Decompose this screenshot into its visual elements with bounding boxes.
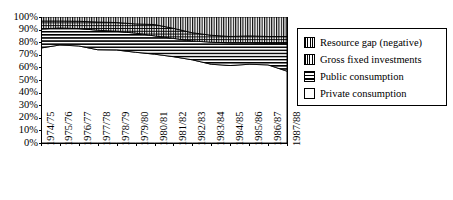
legend-entry: Resource gap (negative) <box>304 35 422 49</box>
legend-swatch-dotted-grid-icon <box>304 54 315 65</box>
x-axis-tick-label: 1984/85 <box>235 112 246 146</box>
x-axis-tick-label: 1975/76 <box>64 112 75 146</box>
x-axis-tick-label: 1982/83 <box>197 112 208 146</box>
legend-entry: Private consumption <box>304 86 407 100</box>
x-axis-tick-label: 1977/78 <box>102 112 113 146</box>
x-axis-tick-label: 1979/80 <box>140 112 151 146</box>
stacked-area-chart: 100%90%80%70%60%50%40%30%20%10%0% <box>0 0 453 200</box>
chart-legend: Resource gap (negative)Gross fixed inves… <box>297 28 447 106</box>
x-axis-tick-label: 1987/88 <box>292 112 303 146</box>
x-axis-tick-label: 1986/87 <box>273 112 284 146</box>
x-axis-tick-label: 1980/81 <box>159 112 170 146</box>
legend-entry: Public consumption <box>304 69 404 83</box>
legend-label: Private consumption <box>320 88 407 99</box>
legend-swatch-vertical-lines-icon <box>304 37 315 48</box>
x-axis-tick-label: 1974/75 <box>46 112 57 146</box>
legend-label: Resource gap (negative) <box>320 37 422 48</box>
legend-label: Gross fixed investments <box>320 54 422 65</box>
legend-swatch-empty-icon <box>304 88 315 99</box>
legend-swatch-horizontal-lines-icon <box>304 71 315 82</box>
x-axis-tick-label: 1981/82 <box>178 112 189 146</box>
x-axis-tick-label: 1983/84 <box>216 112 227 146</box>
legend-entry: Gross fixed investments <box>304 52 422 66</box>
legend-label: Public consumption <box>320 71 404 82</box>
x-axis-tick-label: 1978/79 <box>121 112 132 146</box>
x-axis-tick-label: 1976/77 <box>83 112 94 146</box>
x-axis-tick-label: 1985/86 <box>254 112 265 146</box>
